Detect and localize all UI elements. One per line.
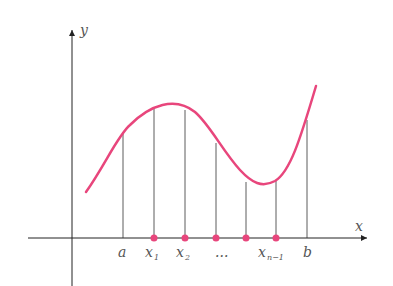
label-b: b (303, 244, 312, 260)
function-curve (86, 86, 316, 192)
label-xn1: x (258, 244, 266, 260)
label-xn1-sub: n−1 (267, 253, 284, 262)
label-x1: x (145, 244, 153, 260)
riemann-partition-diagram: y x a x 1 x 2 ... x n−1 b (0, 0, 393, 286)
x-axis-label: x (355, 218, 363, 234)
label-a: a (118, 244, 126, 260)
label-x2: x (176, 244, 184, 260)
partition-lines (123, 108, 307, 238)
y-axis-label: y (79, 22, 89, 38)
label-ellipsis: ... (215, 244, 228, 260)
label-x1-sub: 1 (154, 253, 159, 262)
label-x2-sub: 2 (184, 253, 190, 262)
